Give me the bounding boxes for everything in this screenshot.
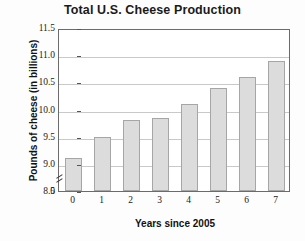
y-tick-mark <box>77 83 81 84</box>
bar <box>210 88 227 191</box>
y-tick-mark <box>77 138 81 139</box>
bar <box>181 104 198 191</box>
y-tick-label: 9.5 <box>25 133 55 143</box>
x-tick-label: 0 <box>63 195 83 205</box>
x-tick-label: 6 <box>237 195 257 205</box>
x-axis-label: Years since 2005 <box>55 218 295 229</box>
bar <box>94 137 111 191</box>
y-tick-label: 11.5 <box>25 24 55 34</box>
x-tick-label: 5 <box>208 195 228 205</box>
y-tick-label: 10.0 <box>25 106 55 116</box>
x-tick-label: 1 <box>92 195 112 205</box>
y-tick-mark <box>77 56 81 57</box>
y-axis-ticks: 11.511.010.510.09.59.08.50 <box>22 0 55 241</box>
axis-break-icon <box>54 174 63 184</box>
x-tick-label: 2 <box>121 195 141 205</box>
y-tick-label: 0 <box>25 187 55 197</box>
x-tick-label: 7 <box>266 195 286 205</box>
y-tick-mark <box>77 165 81 166</box>
bar <box>65 158 82 191</box>
x-axis-ticks: 01234567 <box>58 195 290 209</box>
bar <box>152 118 169 191</box>
chart-figure: Total U.S. Cheese Production Pounds of c… <box>0 0 305 241</box>
y-tick-mark <box>77 29 81 30</box>
bar <box>123 120 140 191</box>
y-tick-mark <box>77 192 81 193</box>
y-tick-label: 11.0 <box>25 51 55 61</box>
x-tick-label: 3 <box>150 195 170 205</box>
y-tick-label: 10.5 <box>25 78 55 88</box>
x-tick-label: 4 <box>179 195 199 205</box>
bar <box>239 77 256 191</box>
bar <box>268 61 285 191</box>
y-tick-mark <box>77 111 81 112</box>
plot-area <box>58 29 290 192</box>
y-tick-label: 9.0 <box>25 160 55 170</box>
bar-series <box>59 30 289 191</box>
